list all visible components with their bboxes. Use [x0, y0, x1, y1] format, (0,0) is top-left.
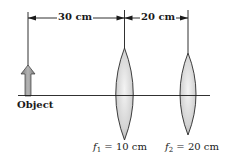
focal-value: 10 cm [116, 141, 147, 152]
equals-sign: = [176, 141, 184, 152]
focal-subscript: 2 [169, 146, 173, 154]
lens-diagram: 30 cm 20 cm Object f1 = 10 cm f2 = 20 cm [0, 0, 235, 159]
lens-1 [116, 48, 134, 140]
focal-value: 20 cm [188, 141, 219, 152]
object-arrow-icon [21, 65, 35, 96]
focal-length-1: f1 = 10 cm [93, 142, 147, 154]
equals-sign: = [104, 141, 112, 152]
diagram-canvas [0, 0, 235, 159]
dimension-label-30cm: 30 cm [57, 12, 93, 22]
focal-subscript: 1 [97, 146, 101, 154]
object-label: Object [17, 100, 53, 110]
dimension-label-20cm: 20 cm [140, 12, 176, 22]
lens-2 [180, 53, 196, 135]
focal-length-2: f2 = 20 cm [165, 142, 219, 154]
